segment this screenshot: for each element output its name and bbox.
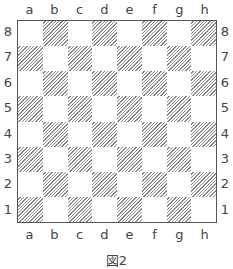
square-a2 xyxy=(18,172,43,197)
square-g7 xyxy=(167,46,192,71)
square-d5 xyxy=(92,96,117,121)
square-c2 xyxy=(68,172,93,197)
rank-label-1: 1 xyxy=(218,203,232,217)
square-c8 xyxy=(68,21,93,46)
square-b4 xyxy=(43,122,68,147)
file-label-g: g xyxy=(167,228,192,242)
square-d1 xyxy=(92,197,117,222)
rank-label-2: 2 xyxy=(1,177,15,191)
square-e7 xyxy=(117,46,142,71)
square-e5 xyxy=(117,96,142,121)
rank-label-6: 6 xyxy=(1,76,15,90)
square-e8 xyxy=(117,21,142,46)
rank-label-8: 8 xyxy=(218,25,232,39)
rank-label-3: 3 xyxy=(1,152,15,166)
square-b3 xyxy=(43,147,68,172)
square-a7 xyxy=(18,46,43,71)
file-label-g: g xyxy=(167,3,192,17)
rank-label-7: 7 xyxy=(1,50,15,64)
file-label-b: b xyxy=(42,3,67,17)
square-f2 xyxy=(142,172,167,197)
square-a5 xyxy=(18,96,43,121)
square-f6 xyxy=(142,71,167,96)
square-a8 xyxy=(18,21,43,46)
file-label-e: e xyxy=(117,228,142,242)
rank-label-8: 8 xyxy=(1,25,15,39)
file-label-e: e xyxy=(117,3,142,17)
square-g6 xyxy=(167,71,192,96)
square-c6 xyxy=(68,71,93,96)
square-h8 xyxy=(191,21,216,46)
square-g8 xyxy=(167,21,192,46)
square-b8 xyxy=(43,21,68,46)
file-label-f: f xyxy=(142,228,167,242)
square-f7 xyxy=(142,46,167,71)
square-d8 xyxy=(92,21,117,46)
square-g5 xyxy=(167,96,192,121)
rank-label-4: 4 xyxy=(1,127,15,141)
square-b7 xyxy=(43,46,68,71)
square-f1 xyxy=(142,197,167,222)
file-label-a: a xyxy=(17,3,42,17)
square-g2 xyxy=(167,172,192,197)
file-label-h: h xyxy=(192,3,217,17)
square-c1 xyxy=(68,197,93,222)
square-d7 xyxy=(92,46,117,71)
square-g3 xyxy=(167,147,192,172)
square-b6 xyxy=(43,71,68,96)
square-h4 xyxy=(191,122,216,147)
square-c5 xyxy=(68,96,93,121)
square-g1 xyxy=(167,197,192,222)
file-label-a: a xyxy=(17,228,42,242)
square-c3 xyxy=(68,147,93,172)
file-label-d: d xyxy=(92,3,117,17)
file-label-c: c xyxy=(67,228,92,242)
figure-caption: 図2 xyxy=(0,250,233,269)
file-label-f: f xyxy=(142,3,167,17)
square-e1 xyxy=(117,197,142,222)
square-e2 xyxy=(117,172,142,197)
file-label-d: d xyxy=(92,228,117,242)
square-b1 xyxy=(43,197,68,222)
square-b5 xyxy=(43,96,68,121)
rank-label-5: 5 xyxy=(1,101,15,115)
square-h5 xyxy=(191,96,216,121)
square-h3 xyxy=(191,147,216,172)
square-h1 xyxy=(191,197,216,222)
square-f4 xyxy=(142,122,167,147)
chessboard xyxy=(17,20,217,223)
square-c7 xyxy=(68,46,93,71)
rank-label-6: 6 xyxy=(218,76,232,90)
square-a3 xyxy=(18,147,43,172)
square-d3 xyxy=(92,147,117,172)
square-a1 xyxy=(18,197,43,222)
square-h2 xyxy=(191,172,216,197)
square-h6 xyxy=(191,71,216,96)
square-d2 xyxy=(92,172,117,197)
rank-label-4: 4 xyxy=(218,127,232,141)
file-label-c: c xyxy=(67,3,92,17)
square-e6 xyxy=(117,71,142,96)
square-c4 xyxy=(68,122,93,147)
square-d6 xyxy=(92,71,117,96)
square-d4 xyxy=(92,122,117,147)
square-b2 xyxy=(43,172,68,197)
rank-label-5: 5 xyxy=(218,101,232,115)
file-label-h: h xyxy=(192,228,217,242)
square-h7 xyxy=(191,46,216,71)
rank-label-2: 2 xyxy=(218,177,232,191)
square-e4 xyxy=(117,122,142,147)
square-g4 xyxy=(167,122,192,147)
rank-label-7: 7 xyxy=(218,50,232,64)
square-f8 xyxy=(142,21,167,46)
square-f5 xyxy=(142,96,167,121)
rank-label-3: 3 xyxy=(218,152,232,166)
square-e3 xyxy=(117,147,142,172)
square-a6 xyxy=(18,71,43,96)
square-f3 xyxy=(142,147,167,172)
square-a4 xyxy=(18,122,43,147)
rank-label-1: 1 xyxy=(1,203,15,217)
file-label-b: b xyxy=(42,228,67,242)
